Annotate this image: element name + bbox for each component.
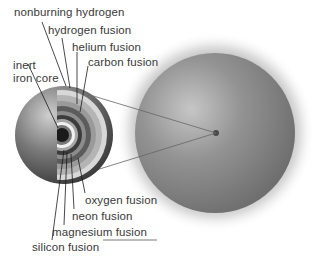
label-neon-fusion: neon fusion [72, 210, 133, 223]
star-diagram [0, 0, 325, 257]
label-oxygen-fusion: oxygen fusion [85, 194, 157, 207]
label-nonburning-hydrogen: nonburning hydrogen [14, 6, 125, 19]
label-magnesium-fusion: magnesium fusion [52, 226, 147, 239]
label-helium-fusion: helium fusion [72, 41, 141, 54]
label-inert-line1: inert [13, 59, 36, 72]
label-silicon-fusion: silicon fusion [32, 241, 99, 254]
label-hydrogen-fusion: hydrogen fusion [48, 24, 131, 37]
label-iron-core: iron core [13, 72, 59, 85]
label-carbon-fusion: carbon fusion [88, 56, 158, 69]
